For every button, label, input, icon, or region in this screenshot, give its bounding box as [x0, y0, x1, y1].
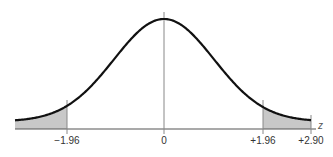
axis-label-z: z — [318, 120, 323, 131]
normal-curve-chart — [0, 0, 333, 157]
tick-neg196: −1.96 — [54, 135, 79, 146]
tick-pos290: +2.90 — [298, 135, 323, 146]
normal-curve — [15, 19, 311, 120]
tick-pos196: +1.96 — [250, 135, 275, 146]
tick-zero: 0 — [161, 135, 167, 146]
